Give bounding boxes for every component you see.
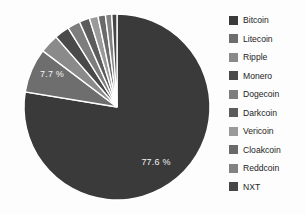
legend-swatch-icon (229, 16, 238, 25)
legend-item-label: Litecoin (243, 34, 273, 44)
pie-plot-area: 77.6 % 7.7 % (0, 0, 228, 215)
legend-item-label: Ripple (243, 52, 267, 62)
legend-item-label: Bitcoin (243, 15, 269, 25)
legend-swatch-icon (229, 34, 238, 43)
legend-item-label: Dogecoin (243, 89, 279, 99)
legend-item[interactable]: Reddcoin (229, 159, 306, 178)
legend-item-label: Monero (243, 71, 272, 81)
legend-item-label: Vericoin (243, 126, 274, 136)
pie-svg: 77.6 % 7.7 % (0, 0, 228, 215)
legend-item[interactable]: NXT (229, 178, 306, 197)
legend-item[interactable]: Darkcoin (229, 104, 306, 123)
legend-swatch-icon (229, 182, 238, 191)
legend-swatch-icon (229, 108, 238, 117)
legend-item[interactable]: Dogecoin (229, 85, 306, 104)
legend-item-label: Cloakcoin (243, 145, 281, 155)
legend-swatch-icon (229, 90, 238, 99)
chart-legend: BitcoinLitecoinRippleMoneroDogecoinDarkc… (229, 11, 306, 196)
legend-swatch-icon (229, 53, 238, 62)
pie-slices-group (24, 14, 210, 200)
legend-swatch-icon (229, 164, 238, 173)
legend-swatch-icon (229, 71, 238, 80)
legend-item[interactable]: Vericoin (229, 122, 306, 141)
legend-swatch-icon (229, 127, 238, 136)
legend-item-label: Reddcoin (243, 163, 279, 173)
slice-label-bitcoin: 77.6 % (141, 157, 170, 167)
legend-item-label: NXT (243, 182, 260, 192)
pie-chart-figure: 77.6 % 7.7 % BitcoinLitecoinRippleMonero… (0, 0, 306, 215)
legend-item[interactable]: Cloakcoin (229, 141, 306, 160)
legend-item-label: Darkcoin (243, 108, 277, 118)
legend-item[interactable]: Litecoin (229, 30, 306, 49)
legend-item[interactable]: Monero (229, 67, 306, 86)
legend-swatch-icon (229, 145, 238, 154)
legend-item[interactable]: Bitcoin (229, 11, 306, 30)
legend-item[interactable]: Ripple (229, 48, 306, 67)
slice-label-litecoin: 7.7 % (40, 69, 64, 79)
